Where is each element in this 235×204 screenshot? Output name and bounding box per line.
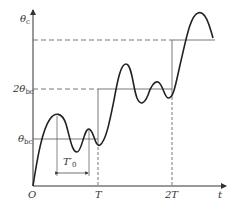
period-label-sub: 0 — [72, 161, 76, 169]
y-axis-label-sub: c — [26, 18, 30, 26]
level1-label: θbc — [18, 134, 32, 146]
level2-label: 2θbc — [13, 84, 34, 96]
tick-t-label: T — [95, 190, 102, 200]
period-label: T′0 — [63, 157, 76, 169]
period-label-main: T′ — [63, 156, 72, 167]
diagram: θc 2θbc θbc T′0 O T 2T t — [0, 0, 235, 204]
temperature-curve — [33, 13, 213, 186]
diagram-canvas — [0, 0, 235, 204]
y-axis-label: θc — [20, 14, 30, 26]
origin-label: O — [28, 190, 36, 200]
level2-label-main: 2θ — [13, 83, 25, 94]
level1-label-sub: bc — [24, 138, 32, 146]
x-axis-label: t — [218, 190, 222, 200]
tick-2t-label: 2T — [165, 190, 178, 200]
level2-label-sub: bc — [25, 88, 33, 96]
